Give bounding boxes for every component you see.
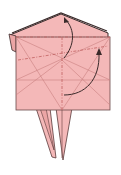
right-leg	[56, 108, 72, 160]
origami-diagram	[0, 0, 121, 175]
left-edge-flap	[9, 34, 16, 52]
legs	[36, 108, 72, 160]
